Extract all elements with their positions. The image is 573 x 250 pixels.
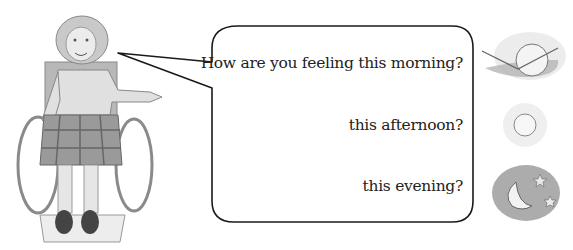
question-evening: this evening? <box>363 177 463 195</box>
sun-icon <box>500 100 550 150</box>
question-morning: How are you feeling this morning? <box>201 54 463 72</box>
moon-stars-icon <box>488 162 566 224</box>
sunrise-icon <box>480 20 570 92</box>
question-afternoon: this afternoon? <box>349 116 463 134</box>
